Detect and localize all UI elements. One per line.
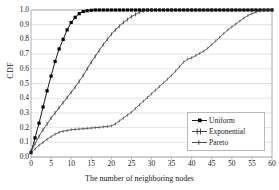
legend-marker-uniform-icon [191, 115, 208, 126]
x-tick-label: 50 [222, 159, 242, 168]
data-point-marker [114, 8, 117, 11]
data-point-marker [102, 8, 105, 11]
x-tick-label: 0 [21, 159, 41, 168]
x-tick-label: 55 [242, 159, 262, 168]
legend-label-exponential: Exponential [208, 127, 245, 136]
data-point-marker [62, 38, 65, 41]
legend-item-uniform[interactable]: Uniform [191, 115, 262, 126]
data-point-marker [37, 122, 40, 125]
data-point-marker [54, 60, 57, 63]
data-point-marker [86, 9, 89, 12]
data-point-marker [33, 136, 36, 139]
data-point-marker [118, 8, 121, 11]
legend-item-exponential[interactable]: Exponential [191, 126, 262, 137]
legend-marker-exponential-icon [191, 126, 208, 137]
data-point-marker [106, 8, 109, 11]
x-axis-title: The number of neighboring nodes [0, 174, 279, 183]
data-point-marker [130, 8, 133, 11]
legend-marker-pareto-icon [191, 137, 208, 148]
data-point-marker [122, 8, 125, 11]
data-point-marker [78, 12, 81, 15]
data-point-marker [98, 8, 101, 11]
x-tick-label: 5 [41, 159, 61, 168]
x-tick-label: 60 [262, 159, 279, 168]
x-tick-label: 30 [142, 159, 162, 168]
data-point-marker [82, 10, 85, 13]
x-tick-label: 10 [61, 159, 81, 168]
x-tick-label: 25 [121, 159, 141, 168]
legend-item-pareto[interactable]: Pareto [191, 137, 262, 148]
x-axis-tick-labels: 051015202530354045505560 [0, 159, 279, 171]
data-point-marker [70, 21, 73, 24]
x-tick-label: 20 [101, 159, 121, 168]
x-tick-label: 45 [202, 159, 222, 168]
legend-label-pareto: Pareto [208, 138, 228, 147]
data-point-marker [110, 8, 113, 11]
data-point-marker [58, 47, 61, 50]
data-point-marker [126, 8, 129, 11]
data-point-marker [94, 8, 97, 11]
data-point-marker [45, 89, 48, 92]
legend: Uniform Exponential Pareto [187, 112, 265, 151]
x-tick-label: 35 [162, 159, 182, 168]
cdf-chart: CDF 0.00.10.20.30.40.50.60.70.80.91.0 05… [0, 0, 279, 190]
data-point-marker [41, 105, 44, 108]
x-tick-label: 40 [182, 159, 202, 168]
data-point-marker [66, 28, 69, 31]
data-point-marker [90, 9, 93, 12]
data-point-marker [49, 75, 52, 78]
legend-label-uniform: Uniform [208, 116, 235, 125]
data-point-marker [134, 8, 137, 11]
x-tick-label: 15 [81, 159, 101, 168]
data-point-marker [74, 16, 77, 19]
